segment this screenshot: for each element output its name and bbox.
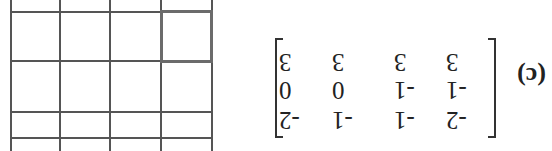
matrix-cell: -1 <box>332 106 382 134</box>
grid <box>10 0 213 151</box>
matrix-row: -2 -1 -1 -2 <box>275 108 496 134</box>
matrix-cell: -2 <box>279 106 329 134</box>
matrix-cell: -1 <box>446 76 496 104</box>
matrix-cell: 3 <box>332 48 382 76</box>
grid-line <box>10 112 213 114</box>
matrix-cell: 0 <box>279 76 329 104</box>
grid-line <box>10 138 213 140</box>
matrix-cell: -2 <box>446 106 496 134</box>
grid-line <box>11 0 13 151</box>
matrix-cell: -1 <box>394 106 444 134</box>
grid-line <box>60 0 62 151</box>
matrix: -2 -1 -1 -2 -1 -1 0 0 3 3 3 3 <box>275 38 496 138</box>
matrix-cell: 3 <box>394 48 444 76</box>
matrix-row: -1 -1 0 0 <box>275 78 496 104</box>
grid-line <box>110 0 112 151</box>
matrix-cell: 0 <box>332 76 382 104</box>
rotated-figure: (c) -2 -1 -1 -2 -1 -1 0 0 3 3 3 3 <box>0 0 552 151</box>
highlighted-cell <box>160 10 213 63</box>
figure-label: (c) <box>517 61 546 91</box>
matrix-cell: 3 <box>279 48 329 76</box>
matrix-cell: -1 <box>394 76 444 104</box>
matrix-cell: 3 <box>446 48 496 76</box>
matrix-row: 3 3 3 3 <box>275 50 496 76</box>
